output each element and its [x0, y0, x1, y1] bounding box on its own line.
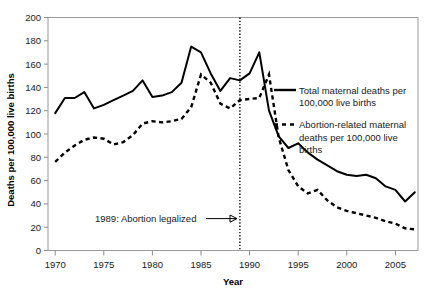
- y-tick-label-120: 120: [25, 105, 41, 116]
- legend-label-abortion-line3: births: [299, 144, 322, 155]
- legend-label-abortion-line2: deaths per 100,000 live: [299, 132, 398, 143]
- y-tick-label-80: 80: [30, 152, 41, 163]
- y-tick-label-180: 180: [25, 35, 41, 46]
- line-chart: Deaths per 100,000 live births 200 180 1…: [0, 0, 439, 294]
- x-axis-title: Year: [223, 276, 243, 287]
- x-tick-label-1980: 1980: [142, 259, 163, 270]
- y-tick-marks: [44, 18, 48, 251]
- y-tick-label-20: 20: [30, 222, 41, 233]
- y-tick-label-140: 140: [25, 82, 41, 93]
- legend-label-abortion-line1: Abortion-related maternal: [299, 119, 406, 130]
- y-tick-label-0: 0: [36, 245, 41, 256]
- y-tick-label-100: 100: [25, 129, 41, 140]
- y-tick-label-60: 60: [30, 175, 41, 186]
- y-axis-title: Deaths per 100,000 live births: [5, 73, 16, 207]
- y-tick-label-160: 160: [25, 59, 41, 70]
- y-tick-label-200: 200: [25, 12, 41, 23]
- x-tick-label-1990: 1990: [239, 259, 260, 270]
- x-tick-label-2000: 2000: [336, 259, 357, 270]
- x-tick-label-2005: 2005: [385, 259, 406, 270]
- x-tick-label-1975: 1975: [93, 259, 114, 270]
- x-tick-label-1985: 1985: [190, 259, 211, 270]
- annotation-arrow-icon: [206, 215, 237, 222]
- y-tick-label-40: 40: [30, 198, 41, 209]
- x-tick-label-1995: 1995: [288, 259, 309, 270]
- chart-figure: Deaths per 100,000 live births 200 180 1…: [0, 0, 439, 294]
- x-tick-label-1970: 1970: [45, 259, 66, 270]
- x-tick-marks: [55, 251, 395, 256]
- legend-label-total-line2: 100,000 live births: [299, 97, 376, 108]
- legend-label-total-line1: Total maternal deaths per: [299, 85, 406, 96]
- annotation-label: 1989: Abortion legalized: [95, 213, 196, 224]
